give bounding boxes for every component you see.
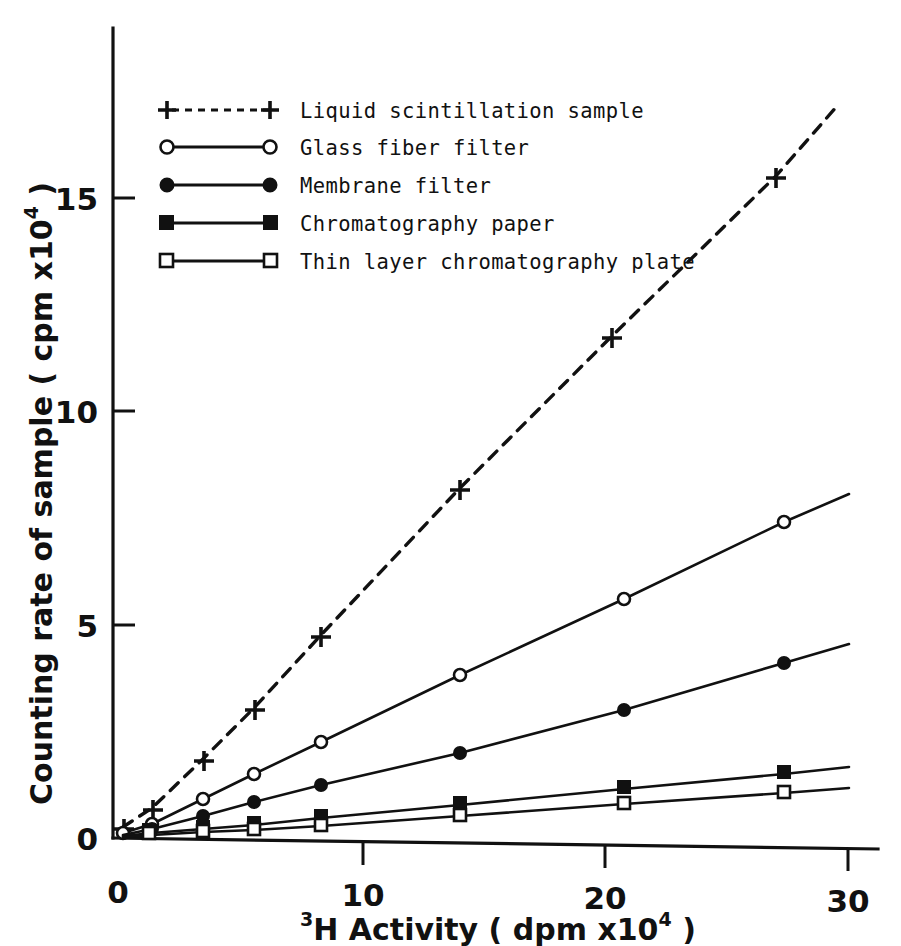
marker-filled-circle: [248, 796, 260, 808]
marker-open-circle: [454, 669, 466, 681]
marker-plus: [194, 751, 214, 771]
legend-filled-circle-icon: [161, 179, 174, 192]
svg-text:3H Activity ( dpm x104 ): 3H Activity ( dpm x104 ): [300, 908, 696, 946]
marker-filled-circle: [315, 779, 327, 791]
legend-entry-membrane-filter[interactable]: Membrane filter: [161, 174, 492, 198]
marker-filled-square: [618, 781, 630, 793]
marker-open-square: [618, 797, 630, 809]
legend-label-4: Chromatography paper: [300, 212, 555, 236]
legend-label-5: Thin layer chromatography plate: [300, 250, 695, 274]
chart-figure: 15 10 5 0 0 10 20 30 3H Activity ( dpm x…: [0, 0, 901, 946]
series-5-path: [123, 788, 849, 837]
legend-entry-liquid-scintillation-sample[interactable]: Liquid scintillation sample: [158, 99, 644, 123]
x-axis-title: 3H Activity ( dpm x104 ): [300, 908, 696, 946]
legend-entry-glass-fiber-filter[interactable]: Glass fiber filter: [161, 136, 530, 160]
marker-open-square: [197, 825, 209, 837]
x-axis-title-tail: ): [672, 912, 696, 946]
chart-svg: 15 10 5 0 0 10 20 30 3H Activity ( dpm x…: [0, 0, 901, 946]
y-axis-title: Counting rate of sample ( cpm x104 ): [20, 182, 59, 805]
marker-open-circle: [618, 593, 630, 605]
marker-open-circle: [778, 516, 790, 528]
legend-entry-thin-layer-chromatography-plate[interactable]: Thin layer chromatography plate: [160, 250, 695, 274]
marker-open-circle: [315, 736, 327, 748]
y-axis-tick-labels: 15 10 5 0: [55, 181, 98, 857]
svg-text:Counting rate of sample ( cpm: Counting rate of sample ( cpm x104 ): [20, 182, 59, 805]
x-axis-title-superscript-pre: 3: [300, 908, 313, 930]
marker-plus: [766, 168, 786, 188]
legend-plus-icon: [158, 101, 176, 119]
y-tick-label-15: 15: [55, 181, 98, 217]
marker-open-square: [315, 819, 327, 831]
marker-open-square: [248, 823, 260, 835]
x-axis-line: [113, 838, 878, 849]
y-axis-ticks: [113, 198, 135, 625]
y-tick-label-5: 5: [76, 608, 98, 644]
legend-filled-square-icon: [264, 216, 277, 229]
series-chromatography-paper: [123, 766, 849, 836]
legend-filled-square-icon: [160, 216, 173, 229]
x-tick-label-30: 30: [826, 883, 869, 919]
marker-open-circle: [248, 768, 260, 780]
series-2-path: [123, 494, 849, 833]
series-membrane-filter: [123, 644, 849, 835]
x-tick-label-0: 0: [107, 874, 129, 910]
marker-filled-square: [454, 797, 466, 809]
y-axis-title-main: Counting rate of sample ( cpm x10: [24, 219, 59, 805]
marker-open-square: [454, 809, 466, 821]
legend-open-circle-icon: [264, 141, 277, 154]
legend-open-circle-icon: [161, 141, 174, 154]
legend-label-3: Membrane filter: [300, 174, 491, 198]
x-axis-title-main: H Activity ( dpm x10: [313, 912, 658, 946]
legend-open-square-icon: [160, 254, 173, 267]
marker-open-square: [143, 827, 155, 839]
marker-open-square: [778, 786, 790, 798]
series-thin-layer-chromatography-plate: [123, 786, 849, 839]
marker-filled-circle: [778, 657, 790, 669]
marker-plus: [245, 700, 265, 720]
x-axis-title-superscript-post: 4: [659, 908, 672, 930]
marker-filled-square: [778, 766, 790, 778]
series-3-markers: [146, 657, 790, 835]
legend-label-2: Glass fiber filter: [300, 136, 529, 160]
marker-filled-circle: [618, 704, 630, 716]
legend-open-square-icon: [264, 254, 277, 267]
legend-entry-chromatography-paper[interactable]: Chromatography paper: [160, 212, 555, 236]
x-tick-label-10: 10: [341, 877, 384, 913]
marker-open-circle: [197, 793, 209, 805]
y-axis-title-superscript: 4: [20, 206, 42, 219]
series-4-path: [123, 767, 849, 836]
legend-filled-circle-icon: [264, 179, 277, 192]
series-3-path: [123, 644, 849, 835]
marker-filled-circle: [454, 747, 466, 759]
chart-legend: Liquid scintillation sample Glass fiber …: [158, 99, 695, 274]
legend-plus-icon: [261, 101, 279, 119]
series-glass-fiber-filter: [117, 494, 849, 839]
x-tick-label-20: 20: [583, 880, 626, 916]
y-tick-label-10: 10: [55, 394, 98, 430]
y-axis-title-tail: ): [24, 182, 59, 206]
y-tick-label-0: 0: [76, 821, 98, 857]
legend-label-1: Liquid scintillation sample: [300, 99, 644, 123]
